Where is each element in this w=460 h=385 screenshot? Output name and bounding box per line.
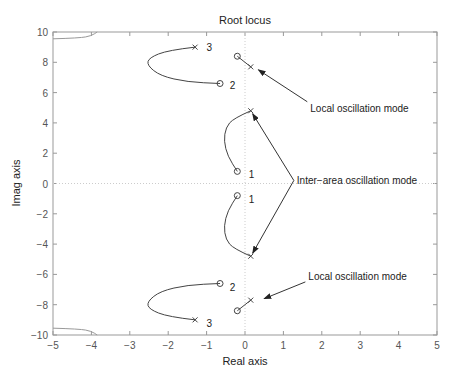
branch-3-lower-curve bbox=[148, 283, 220, 319]
y-tick-label: 2 bbox=[42, 148, 48, 159]
y-tick-label: 10 bbox=[37, 27, 49, 38]
y-tick-label: 4 bbox=[42, 118, 48, 129]
y-tick-label: 6 bbox=[42, 88, 48, 99]
branch-label: 3 bbox=[207, 42, 213, 53]
y-tick-label: 0 bbox=[42, 179, 48, 190]
y-tick-label: −10 bbox=[31, 330, 48, 341]
branch-label: 1 bbox=[249, 169, 255, 180]
x-tick-label: −1 bbox=[201, 340, 213, 351]
annotation-arrow bbox=[264, 282, 305, 299]
y-tick-label: −8 bbox=[37, 300, 49, 311]
annotation-arrow bbox=[253, 180, 294, 253]
chart-title: Root locus bbox=[219, 14, 271, 26]
pole-zero-markers bbox=[193, 45, 254, 323]
annotation-label: Local oscillation mode bbox=[308, 271, 407, 282]
branch-1-lower-curve bbox=[225, 196, 251, 257]
branch-label: 3 bbox=[207, 318, 213, 329]
branch-label: 1 bbox=[249, 194, 255, 205]
branch-label: 2 bbox=[230, 80, 236, 91]
y-tick-label: −2 bbox=[37, 209, 49, 220]
y-tick-label: −4 bbox=[37, 239, 49, 250]
x-tick-label: 3 bbox=[357, 340, 363, 351]
pole-marker bbox=[248, 298, 253, 303]
annotation-label: Local oscillation mode bbox=[310, 103, 409, 114]
x-axis-label: Real axis bbox=[222, 355, 268, 367]
x-tick-label: 5 bbox=[434, 340, 440, 351]
far-branch-upper-curve bbox=[53, 32, 97, 39]
x-tick-label: 0 bbox=[242, 340, 248, 351]
axis-ticks: −5−4−3−2−1012345−10−8−6−4−20246810 bbox=[31, 27, 440, 351]
x-tick-label: −2 bbox=[162, 340, 174, 351]
x-tick-label: 2 bbox=[319, 340, 325, 351]
annotation-arrow bbox=[258, 70, 307, 102]
root-locus-chart: Root locus −5−4−3−2−1012345−10−8−6−4−202… bbox=[0, 0, 460, 385]
branch-label: 2 bbox=[230, 282, 236, 293]
y-tick-label: 8 bbox=[42, 57, 48, 68]
annotations: Local oscillation modeInter−area oscilla… bbox=[253, 70, 418, 299]
annotation-label: Inter−area oscillation mode bbox=[297, 175, 418, 186]
branch-labels: 112233 bbox=[207, 42, 255, 329]
pole-marker bbox=[248, 108, 253, 113]
pole-marker bbox=[248, 64, 253, 69]
root-locus-figure: Root locus −5−4−3−2−1012345−10−8−6−4−202… bbox=[0, 0, 460, 385]
y-tick-label: −6 bbox=[37, 269, 49, 280]
y-axis-label: Imag axis bbox=[10, 159, 22, 207]
x-tick-label: −4 bbox=[86, 340, 98, 351]
far-branch-lower-curve bbox=[53, 328, 97, 335]
annotation-arrow bbox=[253, 114, 294, 181]
x-tick-label: −3 bbox=[124, 340, 136, 351]
x-tick-label: −5 bbox=[47, 340, 59, 351]
x-tick-label: 1 bbox=[281, 340, 287, 351]
x-tick-label: 4 bbox=[396, 340, 402, 351]
pole-marker bbox=[248, 254, 253, 259]
branch-1-upper-curve bbox=[225, 111, 251, 172]
